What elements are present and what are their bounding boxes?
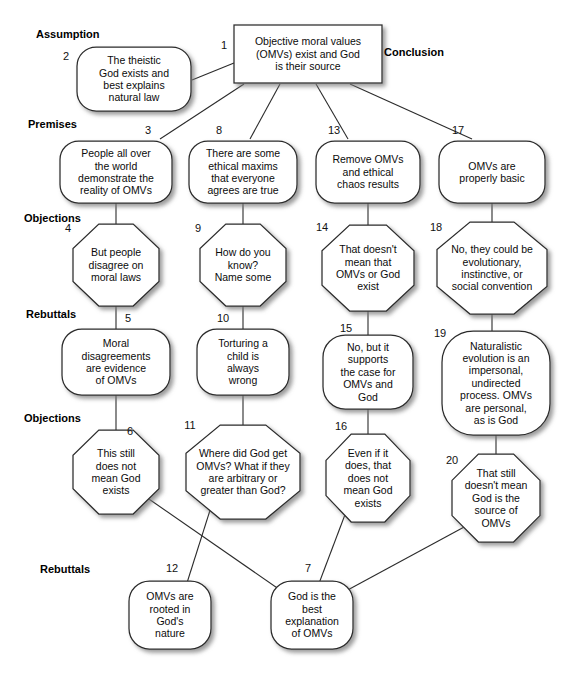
node-number-6: 6: [127, 425, 133, 437]
node-number-5: 5: [125, 312, 131, 324]
edge-2-to-1: [192, 63, 234, 80]
section-label-conclusion: Conclusion: [384, 46, 444, 58]
node-15[interactable]: No, but itsupportsthe case forOMVs andGo…: [323, 322, 413, 409]
node-19[interactable]: Naturalisticevolution is animpersonal,un…: [434, 327, 550, 435]
node-number-15: 15: [340, 322, 352, 334]
node-13[interactable]: Remove OMVsand ethicalchaos results13: [316, 124, 420, 203]
node-number-2: 2: [63, 50, 69, 62]
node-18[interactable]: No, they could beevolutionary,instinctiv…: [430, 221, 547, 314]
node-number-18: 18: [430, 221, 442, 233]
node-16[interactable]: Even if itdoes, thatdoes notmean Godexis…: [326, 420, 410, 522]
node-text-11: Where did God getOMVs? What if theyare a…: [196, 447, 290, 496]
argument-diagram: Objective moral values(OMVs) exist and G…: [0, 0, 578, 691]
edge-20-to-7: [344, 526, 466, 592]
node-number-11: 11: [184, 419, 195, 431]
node-text-18: No, they could beevolutionary,instinctiv…: [451, 243, 533, 292]
diagram-canvas: Objective moral values(OMVs) exist and G…: [0, 0, 578, 691]
node-2[interactable]: The theisticGod exists andbest explainsn…: [63, 47, 191, 111]
node-11[interactable]: Where did God getOMVs? What if theyare a…: [184, 419, 300, 519]
node-number-16: 16: [335, 420, 347, 432]
node-14[interactable]: That doesn'tmean thatOMVs or Godexist14: [316, 221, 414, 311]
section-label-objections-2: Objections: [24, 412, 81, 424]
node-6[interactable]: This stilldoes notmean Godexists6: [73, 425, 159, 514]
node-4[interactable]: But peopledisagree onmoral laws4: [65, 222, 159, 306]
section-label-premises: Premises: [28, 118, 77, 130]
node-text-17: OMVs areproperly basic: [459, 160, 524, 184]
node-number-10: 10: [217, 312, 229, 324]
node-number-9: 9: [195, 222, 201, 234]
node-number-1: 1: [221, 39, 227, 51]
node-number-14: 14: [316, 221, 328, 233]
node-12[interactable]: OMVs arerooted inGod'snature12: [129, 562, 211, 649]
node-number-7: 7: [305, 562, 311, 574]
nodes-layer: Objective moral values(OMVs) exist and G…: [60, 25, 550, 649]
node-number-13: 13: [328, 124, 340, 136]
node-text-7: God is thebestexplanationof OMVs: [285, 590, 339, 639]
section-label-assumption: Assumption: [36, 28, 100, 40]
node-3[interactable]: People all overthe worlddemonstrate ther…: [60, 124, 172, 203]
node-number-3: 3: [145, 124, 151, 136]
node-7[interactable]: God is thebestexplanationof OMVs7: [271, 562, 353, 649]
node-text-4: But peopledisagree onmoral laws: [89, 246, 144, 283]
section-label-rebuttals-1: Rebuttals: [26, 308, 76, 320]
node-text-3: People all overthe worlddemonstrate ther…: [78, 147, 154, 196]
node-text-13: Remove OMVsand ethicalchaos results: [332, 153, 403, 190]
node-17[interactable]: OMVs areproperly basic17: [439, 124, 545, 203]
node-text-2: The theisticGod exists andbest explainsn…: [99, 54, 169, 103]
node-9[interactable]: How do youknow?Name some9: [195, 222, 286, 306]
node-number-20: 20: [446, 454, 458, 466]
section-label-rebuttals-2: Rebuttals: [40, 563, 90, 575]
section-label-objections-1: Objections: [24, 212, 81, 224]
node-text-8: There are someethical maximsthat everyon…: [206, 147, 280, 196]
node-number-19: 19: [434, 327, 446, 339]
edge-11-to-12: [186, 504, 212, 586]
node-number-17: 17: [452, 124, 464, 136]
node-number-8: 8: [216, 124, 222, 136]
node-1[interactable]: Objective moral values(OMVs) exist and G…: [221, 25, 382, 83]
node-8[interactable]: There are someethical maximsthat everyon…: [189, 124, 297, 203]
edge-8-to-1: [250, 84, 280, 139]
node-number-12: 12: [166, 562, 178, 574]
edge-16-to-7: [318, 512, 346, 586]
